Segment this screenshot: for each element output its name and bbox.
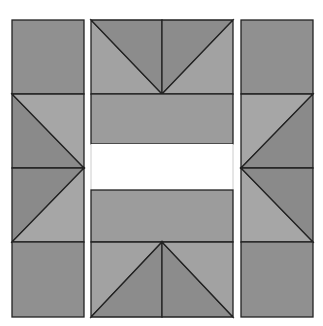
middle-white-gap (91, 144, 233, 190)
left-top-square (12, 20, 84, 94)
right-bottom-square (241, 242, 313, 317)
quilt-diagram (0, 0, 323, 326)
left-column (12, 20, 84, 317)
right-column (241, 20, 313, 317)
middle-upper-band (91, 94, 233, 144)
middle-lower-band (91, 190, 233, 242)
middle-column (91, 20, 233, 317)
left-bottom-square (12, 242, 84, 317)
right-top-square (241, 20, 313, 94)
